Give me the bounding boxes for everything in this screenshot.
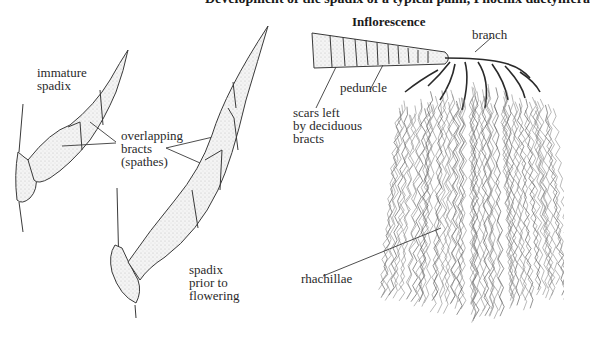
label-line: flowering <box>189 289 240 302</box>
label-line: spadix <box>37 79 87 92</box>
label-immature-spadix: immature spadix <box>37 66 87 92</box>
label-spadix-prior-to-flowering: spadix prior to flowering <box>189 263 240 302</box>
label-rhachillae: rhachillae <box>301 272 352 285</box>
label-line: (spathes) <box>121 155 183 168</box>
label-peduncle: peduncle <box>340 81 387 94</box>
peduncle-drawing <box>312 33 449 68</box>
label-scars: scars left by deciduous bracts <box>293 106 362 145</box>
label-branch: branch <box>472 28 507 41</box>
inflorescence-pointer-lines <box>316 37 492 276</box>
branch-drawing <box>405 58 540 110</box>
rhachillae-drawing <box>379 82 564 323</box>
label-line: bracts <box>293 132 362 145</box>
label-overlapping-bracts: overlapping bracts (spathes) <box>121 129 183 168</box>
inflorescence-title: Inflorescence <box>352 14 425 30</box>
